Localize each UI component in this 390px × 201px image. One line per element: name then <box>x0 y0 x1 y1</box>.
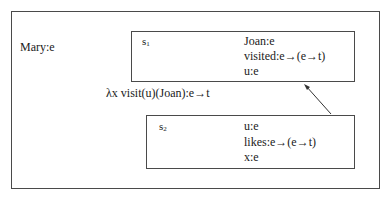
arrow-s2-to-s1-icon <box>0 0 390 201</box>
